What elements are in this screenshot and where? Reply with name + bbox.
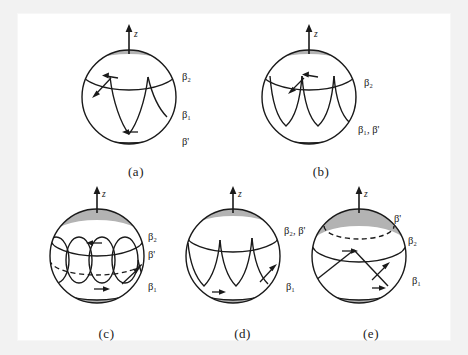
label-beta2-a: β₂ <box>182 72 191 83</box>
panel-d: z β₂, β' β₁ (d) <box>170 186 315 334</box>
trajectory-e3 <box>312 276 316 280</box>
panel-b: z β₂ β₁, β' (b) <box>246 24 396 172</box>
panel-b-diagram <box>246 24 396 158</box>
label-beta2-e: β₂ <box>408 236 417 247</box>
z-label-e: z <box>364 190 368 200</box>
panel-e-diagram <box>296 186 446 320</box>
panel-c-diagram <box>34 186 179 320</box>
label-beta1-d: β₁ <box>286 282 295 293</box>
z-axis-arrowhead-c <box>94 186 101 194</box>
caption-d: (d) <box>170 326 315 342</box>
label-beta2-c: β₂ <box>148 232 157 243</box>
caption-b: (b) <box>246 164 396 180</box>
panel-c: z β₂ β' β₁ (c) <box>34 186 179 334</box>
label-beta1-beta-prime-b: β₁, β' <box>358 125 380 136</box>
figure-frame: z β₂ β₁ β' (a) <box>18 14 450 340</box>
z-axis-arrowhead-b <box>306 24 313 32</box>
label-beta1-c: β₁ <box>148 282 157 293</box>
label-beta-prime-c: β' <box>148 250 155 261</box>
label-beta2-b: β₂ <box>364 78 373 89</box>
z-label-c: z <box>102 190 106 200</box>
label-beta1-a: β₁ <box>182 110 191 121</box>
caption-c: (c) <box>34 326 179 342</box>
label-beta1-e: β₁ <box>412 276 421 287</box>
z-axis-arrowhead-a <box>126 24 133 32</box>
z-axis-arrowhead-e <box>356 186 363 194</box>
panel-e: z β' β₂ β₁ (e) <box>296 186 446 334</box>
z-label-d: z <box>238 190 242 200</box>
caption-e: (e) <box>296 326 446 342</box>
z-label-a: z <box>134 30 138 40</box>
caption-a: (a) <box>66 164 206 180</box>
z-axis-arrowhead-d <box>230 186 237 194</box>
z-label-b: z <box>314 30 318 40</box>
label-beta-prime-a: β' <box>182 137 189 148</box>
panel-d-diagram <box>170 186 315 320</box>
label-beta-prime-e: β' <box>394 214 401 225</box>
panel-a: z β₂ β₁ β' (a) <box>66 24 206 172</box>
